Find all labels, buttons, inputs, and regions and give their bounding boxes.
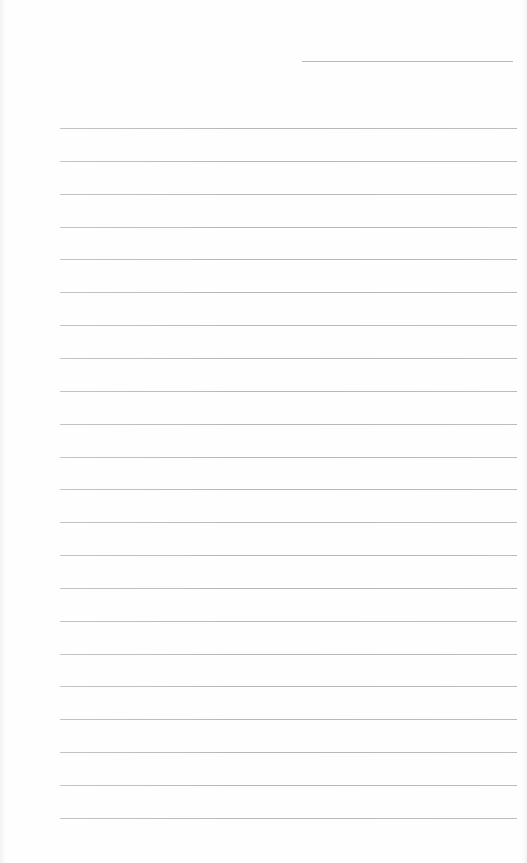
ruled-line xyxy=(60,489,517,490)
ruled-line xyxy=(60,752,517,753)
ruled-line xyxy=(60,358,517,359)
ruled-line xyxy=(60,259,517,260)
ruled-line xyxy=(60,621,517,622)
lined-paper-page xyxy=(0,0,527,863)
ruled-line xyxy=(60,292,517,293)
ruled-line xyxy=(60,161,517,162)
ruled-line xyxy=(60,654,517,655)
ruled-line xyxy=(60,194,517,195)
ruled-line xyxy=(60,391,517,392)
ruled-line xyxy=(60,785,517,786)
ruled-line xyxy=(60,227,517,228)
ruled-line xyxy=(60,325,517,326)
ruled-line xyxy=(60,457,517,458)
ruled-line xyxy=(60,588,517,589)
ruled-line xyxy=(60,555,517,556)
ruled-line xyxy=(60,719,517,720)
ruled-line xyxy=(60,686,517,687)
ruled-line xyxy=(60,128,517,129)
ruled-line xyxy=(60,522,517,523)
ruled-lines-container xyxy=(0,0,527,863)
ruled-line xyxy=(60,424,517,425)
ruled-line xyxy=(60,818,517,819)
